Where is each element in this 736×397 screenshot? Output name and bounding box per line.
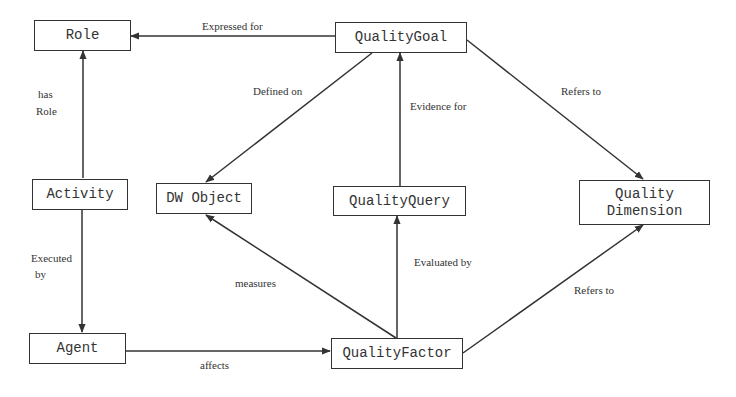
node-quality-query: QualityQuery	[333, 186, 466, 216]
node-quality-goal-label: QualityGoal	[355, 29, 447, 46]
label-evidence-for: Evidence for	[410, 99, 467, 114]
label-evaluated-by: Evaluated by	[414, 255, 472, 270]
node-role: Role	[34, 20, 131, 51]
node-quality-query-label: QualityQuery	[349, 193, 450, 210]
edge-factor-refers-to	[463, 225, 643, 353]
label-defined-on: Defined on	[253, 84, 302, 99]
node-quality-dimension-label-line2: Dimension	[607, 203, 683, 220]
node-quality-dimension-label-line1: Quality	[615, 186, 674, 203]
label-affects: affects	[200, 358, 229, 373]
label-expressed-for: Expressed for	[202, 19, 263, 34]
label-executed-by-line2: by	[35, 267, 46, 282]
node-quality-goal: QualityGoal	[335, 22, 467, 53]
node-dw-object-label: DW Object	[166, 190, 242, 207]
node-quality-dimension: Quality Dimension	[579, 180, 710, 225]
node-role-label: Role	[66, 27, 100, 44]
label-goal-refers-to: Refers to	[561, 84, 601, 99]
edge-defined-on	[206, 53, 372, 182]
node-activity-label: Activity	[46, 186, 113, 203]
node-agent-label: Agent	[56, 340, 98, 357]
label-has-role-line2: Role	[36, 104, 57, 119]
node-quality-factor-label: QualityFactor	[342, 345, 451, 362]
node-dw-object: DW Object	[156, 183, 252, 214]
node-quality-factor: QualityFactor	[331, 338, 463, 369]
label-measures: measures	[235, 276, 276, 291]
label-factor-refers-to: Refers to	[574, 283, 614, 298]
node-agent: Agent	[29, 333, 126, 364]
node-activity: Activity	[32, 179, 128, 210]
edge-goal-refers-to	[467, 40, 643, 179]
label-executed-by-line1: Executed	[31, 251, 72, 266]
label-has-role-line1: has	[38, 87, 53, 102]
